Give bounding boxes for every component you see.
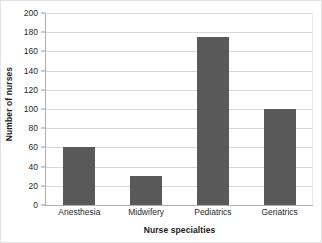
bar[interactable] (264, 109, 296, 205)
bar[interactable] (197, 37, 229, 205)
y-axis-title-text: Number of nurses (4, 66, 14, 140)
x-tick-label: Anesthesia (58, 207, 100, 217)
x-tick-label: Pediatrics (194, 207, 231, 217)
x-axis-title: Nurse specialties (46, 225, 313, 235)
bar-slot (180, 13, 247, 205)
y-tick-label: 80 (29, 123, 38, 133)
y-tick-label: 100 (24, 104, 38, 114)
axis-baseline (46, 205, 313, 206)
x-axis-tick-labels: AnesthesiaMidwiferyPediatricsGeriatrics (46, 207, 313, 223)
y-tick-label: 160 (24, 46, 38, 56)
bar[interactable] (63, 147, 95, 205)
bar-slot (113, 13, 180, 205)
bar-slot (246, 13, 313, 205)
bar-slot (46, 13, 113, 205)
y-axis-tick-labels: 020406080100120140160180200 (17, 1, 41, 206)
y-tick-label: 180 (24, 27, 38, 37)
y-tick-label: 140 (24, 66, 38, 76)
y-tick-label: 120 (24, 85, 38, 95)
bar-chart: Number of nurses 02040608010012014016018… (0, 0, 322, 243)
y-axis-title: Number of nurses (1, 1, 17, 206)
y-tick-label: 200 (24, 8, 38, 18)
y-tick-label: 0 (33, 200, 38, 210)
y-tick-label: 40 (29, 162, 38, 172)
bars-group (46, 13, 313, 205)
bar[interactable] (130, 176, 162, 205)
y-tick-label: 60 (29, 142, 38, 152)
x-tick-label: Midwifery (128, 207, 164, 217)
plot-area (46, 13, 313, 205)
x-tick-label: Geriatrics (261, 207, 297, 217)
y-tick-label: 20 (29, 181, 38, 191)
